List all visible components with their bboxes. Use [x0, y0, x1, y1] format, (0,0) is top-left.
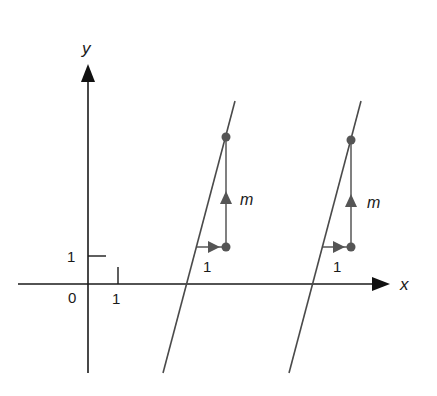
origin-label: 0: [68, 289, 76, 306]
rise-arrow-icon: [345, 194, 357, 207]
run-label: 1: [333, 258, 341, 275]
point-marker: [222, 243, 231, 252]
sloped-line: [163, 101, 235, 373]
y-axis-label: y: [81, 39, 92, 58]
y-axis-arrow-icon: [81, 64, 95, 82]
rise-label: m: [240, 191, 253, 208]
x-axis-arrow-icon: [372, 277, 390, 291]
x-axis-label: x: [399, 275, 409, 294]
diagram-canvas: y x 0 1 1 1 m 1 m: [0, 0, 437, 396]
line-1: 1 m: [163, 101, 253, 373]
point-marker: [222, 133, 231, 142]
point-marker: [347, 136, 356, 145]
x-tick-label: 1: [112, 290, 120, 307]
run-label: 1: [203, 258, 211, 275]
rise-label: m: [367, 194, 380, 211]
rise-arrow-icon: [220, 191, 232, 204]
y-axis: [81, 64, 95, 373]
slope-diagram: y x 0 1 1 1 m 1 m: [0, 0, 437, 396]
line-2: 1 m: [289, 101, 380, 373]
y-tick-label: 1: [67, 248, 75, 265]
point-marker: [347, 243, 356, 252]
run-arrow-icon: [333, 241, 345, 253]
run-arrow-icon: [208, 241, 220, 253]
